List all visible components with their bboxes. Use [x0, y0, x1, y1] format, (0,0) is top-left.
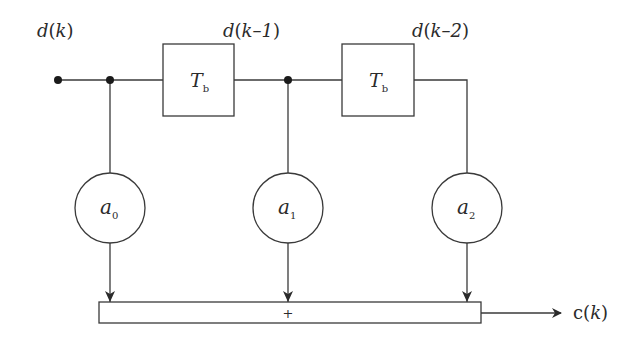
coef-label-2: a2: [457, 195, 475, 221]
delay-label-2: Tb: [369, 69, 388, 94]
tap-node-dot-0: [106, 76, 114, 84]
tap1-label: d(k–1): [223, 20, 280, 41]
delay-label-1: Tb: [190, 69, 209, 94]
tap-node-dot-1: [284, 76, 292, 84]
coef-label-1: a1: [278, 195, 296, 221]
input-node-dot: [54, 76, 62, 84]
output-label: c(k): [573, 302, 608, 323]
delay2-output-wire: [414, 80, 467, 173]
summer-plus-symbol: +: [283, 306, 294, 321]
coef-label-0: a0: [100, 195, 118, 221]
input-label: d(k): [37, 20, 74, 41]
filter-diagram: d(k) d(k–1) d(k–2) Tb Tb a0 a1 a2 + c(k): [0, 0, 632, 339]
tap2-label: d(k–2): [412, 20, 469, 41]
